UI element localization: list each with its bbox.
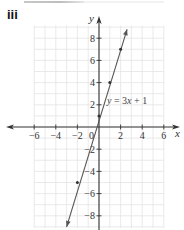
data-point	[108, 81, 111, 84]
x-axis-label: x	[174, 127, 180, 139]
data-point	[119, 48, 122, 51]
y-tick-label: 6	[90, 55, 95, 66]
origin-label: 0	[89, 130, 94, 141]
x-tick-label: −2	[72, 130, 83, 141]
equation-label: y = 3x + 1	[106, 95, 147, 106]
x-tick-label: 4	[140, 130, 145, 141]
y-axis-label: y	[88, 12, 94, 24]
y-tick-label: 8	[90, 33, 95, 44]
data-point	[76, 181, 79, 184]
y-tick-label: 2	[90, 99, 95, 110]
x-tick-label: −4	[50, 130, 61, 141]
y-tick-label: 4	[90, 77, 95, 88]
x-tick-label: 2	[118, 130, 123, 141]
data-point	[98, 114, 101, 117]
x-tick-label: −6	[29, 130, 40, 141]
x-tick-label: 6	[161, 130, 166, 141]
chart-series	[66, 29, 128, 227]
y-tick-label: −8	[84, 210, 95, 221]
y-tick-label: −6	[84, 188, 95, 199]
y-tick-label: −4	[84, 166, 95, 177]
chart: −6−4−2246−8−6−4−22468 y = 3x + 1 x y 0	[0, 0, 184, 230]
